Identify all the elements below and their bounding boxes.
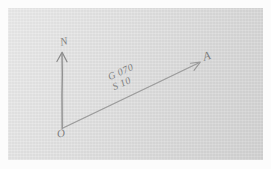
diagram-canvas xyxy=(0,0,271,169)
scanned-page-frame: N O A G 070 S 10 xyxy=(0,0,271,169)
origin-label: O xyxy=(56,128,65,140)
